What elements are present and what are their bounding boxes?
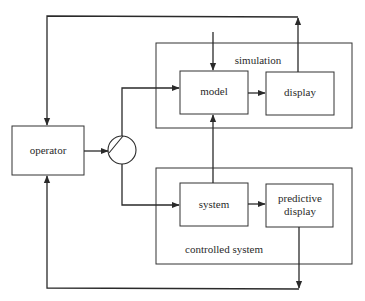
block-diagram: simulation controlled system operator mo… [0,0,365,301]
controlled-system-group-label: controlled system [185,243,263,255]
operator-block-label: operator [30,144,67,156]
model-block-label: model [200,85,228,97]
arrow-top-feedback-to-operator [47,16,298,125]
operator-block: operator [12,126,84,175]
predictive-display-block: predictive display [266,184,333,227]
system-block: system [180,183,248,226]
arrow-switch-to-system [122,164,179,205]
switch-icon [108,136,136,164]
model-block: model [180,71,248,114]
predictive-display-label-line1: predictive [278,192,322,204]
arrow-bottom-feedback-to-operator [47,176,299,289]
simulation-group-label: simulation [235,54,282,66]
predictive-display-label-line2: display [284,205,316,217]
system-block-label: system [199,198,230,210]
arrow-switch-to-model [122,88,179,136]
controlled-system-group: controlled system [156,168,352,264]
display-block-label: display [284,86,316,98]
display-block: display [266,72,334,115]
